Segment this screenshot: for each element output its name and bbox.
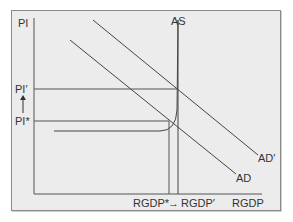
as-curve bbox=[54, 20, 178, 194]
as-label: AS bbox=[171, 15, 186, 27]
rgdp-new-label: RGDP′ bbox=[181, 197, 215, 209]
arrow-up-icon bbox=[20, 95, 26, 100]
pi-initial-label: PI* bbox=[15, 115, 30, 127]
as-ad-diagram: PI AS PI′ PI* AD′ AD RGDP* → RGDP′ RGDP bbox=[0, 0, 293, 222]
pi-new-label: PI′ bbox=[15, 83, 27, 95]
ad-shifted-label: AD′ bbox=[258, 152, 275, 164]
ad-shifted-curve bbox=[93, 20, 258, 155]
rgdp-initial-label: RGDP* bbox=[133, 197, 170, 209]
x-axis-label: RGDP bbox=[232, 197, 264, 209]
ad-label: AD bbox=[236, 172, 251, 184]
y-axis-label: PI bbox=[18, 17, 28, 29]
rgdp-arrow: → bbox=[168, 197, 179, 209]
ad-curve bbox=[70, 40, 236, 174]
